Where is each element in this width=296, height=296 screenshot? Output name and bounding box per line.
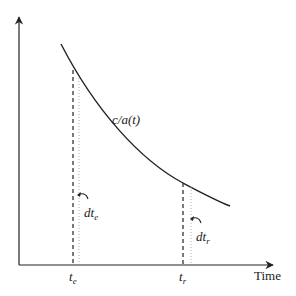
tr-sub: r [183,276,187,286]
te-tick-label: te [69,270,77,286]
dte-sub: e [94,212,98,222]
dte-label: dte [84,206,98,222]
dte-base: dt [84,205,94,220]
tr-tick-label: tr [179,270,186,286]
dtr-base: dt [196,229,206,244]
dtr-sub: r [206,236,210,246]
te-sub: e [73,276,77,286]
curve-label: c/a(t) [112,113,140,126]
decay-curve [61,44,230,206]
diagram-svg [0,0,296,296]
x-axis-label: Time [254,269,281,282]
dtr-label: dtr [196,230,210,246]
diagram-canvas: c/a(t) dte dtr te tr Time [0,0,296,296]
